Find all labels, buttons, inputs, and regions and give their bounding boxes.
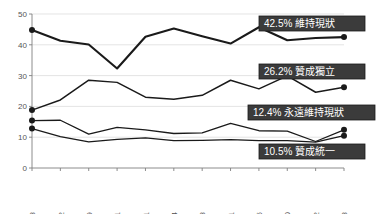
series-endpoint-dot	[341, 34, 347, 40]
callout-label-1: 42.5% 維持現狀	[264, 17, 335, 29]
series-endpoint-dot	[29, 118, 35, 124]
series-endpoint-dot	[29, 107, 35, 113]
y-axis-tick-labels: 01020304050	[18, 10, 32, 173]
series-endpoint-dot	[29, 126, 35, 132]
y-tick-label: 30	[18, 72, 27, 81]
y-tick-label: 40	[18, 41, 27, 50]
x-tick-label: 2008/4	[170, 211, 179, 214]
x-tick-label: 2010/3	[340, 211, 349, 214]
x-tick-label: 2008/1	[142, 211, 151, 214]
series-line-1	[32, 27, 344, 68]
y-tick-label: 50	[18, 10, 27, 19]
x-tick-label: 2007/11	[113, 211, 122, 214]
line-chart-container: 01020304050 2006/82006/122007/92007/1120…	[0, 0, 387, 214]
x-tick-label: 2007/9	[85, 211, 94, 214]
series-endpoint-dot	[341, 127, 347, 133]
series-endpoint-dot	[29, 27, 35, 33]
chart-canvas: 01020304050 2006/82006/122007/92007/1120…	[0, 0, 387, 214]
x-tick-label: 2009/5	[255, 211, 264, 214]
x-tick-label: 2009/10	[283, 211, 292, 214]
x-tick-label: 2008/11	[227, 211, 236, 214]
series-line-3	[32, 120, 344, 141]
x-axis-tick-labels: 2006/82006/122007/92007/112008/12008/420…	[28, 168, 349, 214]
series-endpoint-dot	[341, 133, 347, 139]
x-tick-label: 2008/8	[198, 211, 207, 214]
callout-label-2: 26.2% 贊成獨立	[264, 65, 335, 77]
y-tick-label: 20	[18, 102, 27, 111]
y-tick-label: 0	[23, 164, 28, 173]
callout-label-3: 12.4% 永遠維持現狀	[253, 106, 344, 118]
x-tick-label: 2006/8	[28, 211, 37, 214]
x-tick-label: 2009/12	[312, 211, 321, 214]
x-tick-label: 2006/12	[57, 211, 66, 214]
callout-label-4: 10.5% 贊成統一	[264, 145, 335, 157]
y-tick-label: 10	[18, 133, 27, 142]
series-endpoint-dot	[341, 84, 347, 90]
